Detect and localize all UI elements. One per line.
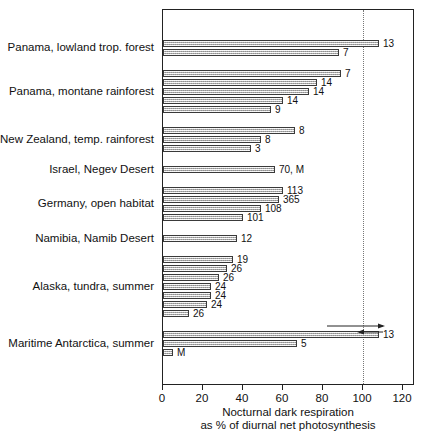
bar-value-label: 8 [299,126,305,136]
x-tick-label-120: 120 [392,392,411,404]
x-tick-label-60: 60 [276,392,289,404]
bar-value-label: 70, M [279,165,304,175]
category-label: Namibia, Namib Desert [35,232,154,244]
x-tick-0 [162,385,163,390]
bar [163,88,309,95]
plot-area: 1377141414988370, M113365108101121926262… [162,9,414,385]
bar [163,340,297,347]
category-label: Israel, Negev Desert [49,163,154,175]
reference-line-100 [363,10,364,384]
bar [163,145,251,152]
x-tick-100 [362,385,363,390]
bar [163,97,283,104]
x-axis: 020406080100120 [162,385,414,386]
bar-value-label: 365 [283,195,300,205]
bar [163,70,341,77]
bar [163,301,207,308]
bar [163,127,295,134]
category-axis-labels: Panama, lowland trop. forestPanama, mont… [0,0,158,446]
x-tick-120 [402,385,403,390]
bar [163,256,233,263]
x-tick-40 [242,385,243,390]
bar [163,136,261,143]
category-label: Alaska, tundra, summer [33,280,154,292]
bar-value-label: 13 [383,330,394,340]
category-label: Panama, lowland trop. forest [8,41,154,53]
bar-chart: Panama, lowland trop. forestPanama, mont… [0,0,431,446]
x-tick-60 [282,385,283,390]
category-label: Germany, open habitat [38,197,154,209]
x-tick-80 [322,385,323,390]
bar-value-label: M [177,348,185,358]
bar [163,79,317,86]
x-tick-label-40: 40 [236,392,249,404]
bar [163,166,275,173]
bar-value-label: 12 [241,234,252,244]
x-axis-title-line2: as % of diurnal net photosynthesis [162,419,414,432]
bar [163,40,379,47]
bar [163,187,283,194]
bar [163,196,279,203]
bar [163,214,243,221]
x-tick-label-80: 80 [316,392,329,404]
bar-value-label: 7 [343,48,349,58]
bar [163,349,173,356]
bar [163,331,379,338]
category-label: Panama, montane rainforest [9,85,154,97]
x-tick-20 [202,385,203,390]
x-axis-title-line1: Nocturnal dark respiration [162,406,414,419]
bar-value-label: 108 [265,204,282,214]
bar [163,265,227,272]
bar-value-label: 101 [247,213,264,223]
bar [163,292,211,299]
bar-value-label: 7 [345,69,351,79]
x-tick-label-20: 20 [196,392,209,404]
bar-value-label: 14 [313,87,324,97]
bar-value-label: 13 [383,39,394,49]
category-label: New Zealand, temp. rainforest [0,133,154,145]
x-tick-label-100: 100 [352,392,371,404]
bar-value-label: 24 [211,300,222,310]
bar-value-label: 8 [265,135,271,145]
bar [163,106,271,113]
bar-value-label: 3 [255,144,261,154]
bar [163,235,237,242]
x-tick-label-0: 0 [159,392,165,404]
bar [163,274,219,281]
bar-value-label: 9 [275,105,281,115]
bar [163,49,339,56]
bar-value-label: 26 [193,309,204,319]
bar [163,310,189,317]
bar-value-label: 14 [287,96,298,106]
bar-value-label: 5 [301,339,307,349]
category-label: Maritime Antarctica, summer [8,337,154,349]
bar [163,283,211,290]
bar [163,205,261,212]
